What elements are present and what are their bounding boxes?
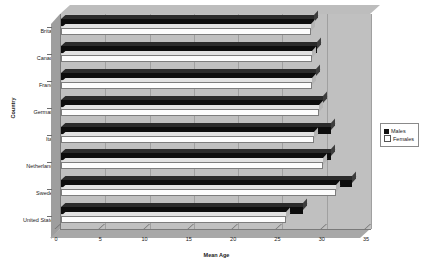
y-axis-tick-labels: BritainCanadaFranceGermanyItalyNetherlan… [0, 14, 56, 229]
bar-females [61, 55, 312, 62]
bar-body [61, 82, 312, 89]
plot-area [60, 14, 370, 229]
y-axis-tick [47, 162, 52, 163]
x-axis-title: Mean Age [0, 252, 433, 258]
x-axis-tick-label: 35 [354, 236, 378, 242]
y-axis-tick [47, 81, 52, 82]
legend-label: Males [391, 128, 406, 134]
bar-females [61, 216, 286, 223]
bar-end-face [286, 208, 290, 219]
bar-females [61, 109, 319, 116]
bar-body [61, 189, 336, 196]
legend-entry-males: Males [384, 128, 414, 134]
x-axis-tick-label: 0 [44, 236, 68, 242]
chart-wall-top [60, 5, 380, 14]
y-axis-tick [47, 189, 52, 190]
y-axis-tick [47, 108, 52, 109]
bar-females [61, 28, 311, 35]
bar-end-face [303, 199, 307, 210]
x-axis-tick-label: 10 [133, 236, 157, 242]
hollow-square-icon [384, 135, 391, 142]
bar-end-face [317, 37, 321, 48]
bar-end-face [352, 172, 356, 183]
legend-label: Females [393, 136, 414, 142]
legend-entry-females: Females [384, 135, 414, 142]
chart-legend: Males Females [380, 123, 419, 147]
chart-wall-left [51, 14, 60, 239]
bar-females [61, 82, 312, 89]
gridline [327, 14, 328, 229]
y-axis-tick [47, 135, 52, 136]
bar-body [61, 216, 286, 223]
bar-end-face [331, 145, 335, 156]
bar-body [61, 162, 323, 169]
x-axis-tick-label: 5 [88, 236, 112, 242]
bar-body [61, 109, 319, 116]
y-axis-tick [47, 27, 52, 28]
bar-end-face [316, 64, 320, 75]
y-axis-tick [47, 54, 52, 55]
chart-figure: Country BritainCanadaFranceGermanyItalyN… [0, 0, 433, 272]
bar-females [61, 136, 314, 143]
x-axis-tick-label: 20 [221, 236, 245, 242]
bar-body [61, 55, 312, 62]
x-axis-tick-label: 15 [177, 236, 201, 242]
filled-square-icon [384, 129, 389, 134]
gridline [371, 14, 372, 229]
x-axis-tick-label: 25 [265, 236, 289, 242]
bar-end-face [331, 118, 335, 129]
bar-body [61, 136, 314, 143]
plot-canvas [60, 14, 371, 230]
x-axis-tick-label: 30 [310, 236, 334, 242]
bar-end-face [336, 181, 340, 192]
bar-females [61, 162, 323, 169]
bar-females [61, 189, 336, 196]
bar-body [61, 28, 311, 35]
y-axis-tick [47, 216, 52, 217]
